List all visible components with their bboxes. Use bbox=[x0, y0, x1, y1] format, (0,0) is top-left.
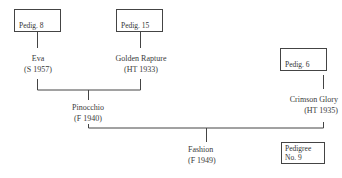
node-name: Golden Rapture bbox=[105, 53, 177, 64]
node-fashion: Fashion (F 1949) bbox=[188, 144, 228, 166]
pedigree-number-box: Pedigree No. 9 bbox=[281, 142, 325, 164]
node-detail: (HT 1935) bbox=[282, 105, 338, 116]
node-pinocchio: Pinocchio (F 1940) bbox=[62, 102, 114, 124]
node-name: Eva bbox=[12, 53, 64, 64]
pedigree-diagram: Pedig. 8 Pedig. 15 Pedig. 6 Eva (S 1957)… bbox=[0, 0, 342, 178]
node-crimson-glory: Crimson Glory (HT 1935) bbox=[282, 94, 338, 116]
node-eva: Eva (S 1957) bbox=[12, 53, 64, 75]
ref-box-golden-rapture[interactable]: Pedig. 15 bbox=[116, 9, 163, 32]
node-name: Crimson Glory bbox=[282, 94, 338, 105]
node-detail: (S 1957) bbox=[12, 64, 64, 75]
node-detail: (F 1949) bbox=[188, 155, 228, 166]
node-golden-rapture: Golden Rapture (HT 1933) bbox=[105, 53, 177, 75]
pedigree-label-line2: No. 9 bbox=[285, 153, 311, 162]
node-name: Fashion bbox=[188, 144, 228, 155]
ref-label: Pedig. 6 bbox=[285, 60, 310, 69]
ref-label: Pedig. 15 bbox=[121, 21, 149, 30]
ref-box-crimson-glory[interactable]: Pedig. 6 bbox=[280, 48, 327, 71]
ref-box-eva[interactable]: Pedig. 8 bbox=[14, 9, 61, 32]
node-name: Pinocchio bbox=[62, 102, 114, 113]
node-detail: (F 1940) bbox=[62, 113, 114, 124]
pedigree-label-line1: Pedigree bbox=[285, 144, 311, 153]
ref-label: Pedig. 8 bbox=[19, 21, 44, 30]
node-detail: (HT 1933) bbox=[105, 64, 177, 75]
edge-parents-fashion bbox=[89, 122, 324, 128]
edge-parents-pinocchio bbox=[38, 79, 141, 90]
